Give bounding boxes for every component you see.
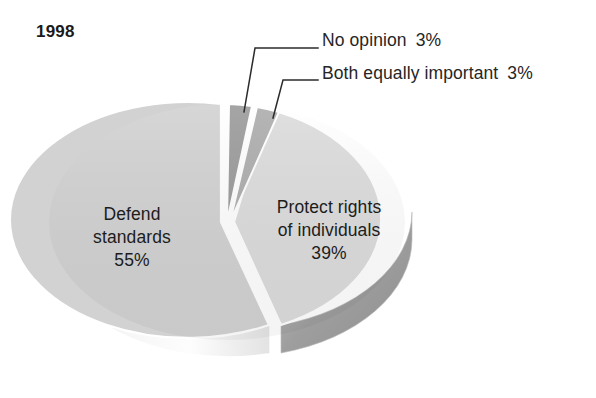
callout-value-both-equally-important: 3% — [507, 63, 533, 83]
callout-text-both-equally-important: Both equally important — [322, 63, 498, 83]
pie-chart-figure: 1998 No opinion3% Both equally important… — [0, 0, 596, 398]
slice-label-protect-rights-of-individuals: Protect rights of individuals 39% — [254, 196, 404, 265]
year-label: 1998 — [36, 22, 75, 42]
slice-label-line2-defend-standards: standards — [62, 226, 202, 249]
slice-label-defend-standards: Defend standards 55% — [62, 203, 202, 272]
slice-value-defend-standards: 55% — [62, 249, 202, 272]
slice-label-line1-protect-rights: Protect rights — [254, 196, 404, 219]
callout-leader-lines — [244, 48, 318, 118]
callout-text-no-opinion: No opinion — [322, 30, 407, 50]
callout-label-no-opinion: No opinion3% — [322, 30, 441, 51]
slice-label-line2-protect-rights: of individuals — [254, 219, 404, 242]
slice-label-line1-defend-standards: Defend — [62, 203, 202, 226]
slice-value-protect-rights: 39% — [254, 242, 404, 265]
callout-value-no-opinion: 3% — [416, 30, 442, 50]
callout-label-both-equally-important: Both equally important3% — [322, 63, 533, 84]
